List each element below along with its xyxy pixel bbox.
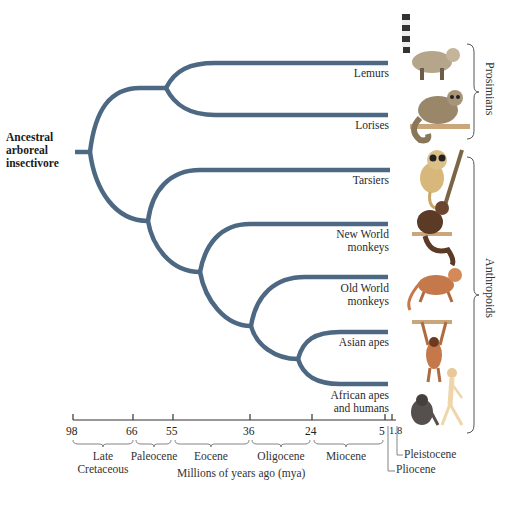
- group-braces: [467, 44, 479, 433]
- chimp-and-human-illustration: [411, 368, 462, 425]
- taxon-label-line: Old World: [341, 282, 389, 295]
- taxon-label-lorises: Lorises: [355, 119, 389, 132]
- loris-illustration: [410, 90, 470, 140]
- epoch-pleistocene: Pleistocene: [404, 448, 456, 461]
- taxon-label-line: monkeys: [336, 241, 389, 254]
- epoch-miocene: Miocene: [316, 450, 376, 463]
- group-label-anthropoids: Anthropoids: [482, 258, 497, 318]
- tick-98: 98: [66, 425, 78, 437]
- epoch-oligocene: Oligocene: [251, 450, 311, 463]
- tick-55: 55: [166, 425, 178, 437]
- branch-catarrhines: [200, 272, 251, 326]
- branch-anthropoids: [90, 152, 148, 221]
- tick-1-8: 1.8: [389, 425, 402, 436]
- tick-5: 5: [379, 425, 385, 437]
- lemur-illustration: [402, 14, 460, 80]
- taxon-label-new-world-monkeys: New World monkeys: [336, 228, 389, 254]
- epoch-pliocene: Pliocene: [396, 463, 436, 476]
- root-label: Ancestral arboreal insectivore: [6, 131, 59, 170]
- anthropoids-brace: [467, 157, 479, 433]
- epoch-label-line: Cretaceous: [63, 463, 143, 476]
- axis-title: Millions of years ago (mya): [177, 467, 305, 479]
- taxon-label-tarsiers: Tarsiers: [353, 174, 389, 187]
- tick-24: 24: [305, 425, 317, 437]
- root-label-line: arboreal: [6, 144, 59, 157]
- taxon-label-line: and humans: [331, 402, 389, 415]
- root-label-line: insectivore: [6, 157, 59, 170]
- taxon-label-lemurs: Lemurs: [354, 67, 389, 80]
- taxon-label-old-world-monkeys: Old World monkeys: [341, 282, 389, 308]
- root-label-line: Ancestral: [6, 131, 59, 144]
- branch-african-apes: [298, 359, 388, 384]
- taxon-label-african-apes-and-humans: African apes and humans: [331, 389, 389, 415]
- tick-66: 66: [126, 425, 138, 437]
- branch-simians: [148, 221, 200, 272]
- new-world-monkey-illustration: [412, 201, 453, 265]
- taxon-label-line: African apes: [331, 389, 389, 402]
- epoch-paleocene: Paleocene: [124, 450, 184, 463]
- tick-36: 36: [243, 425, 255, 437]
- branch-prosimians: [90, 88, 166, 152]
- taxon-label-line: New World: [336, 228, 389, 241]
- old-world-monkey-illustration: [409, 268, 462, 310]
- gibbon-illustration: [412, 320, 452, 382]
- taxon-label-line: monkeys: [341, 295, 389, 308]
- tarsier-illustration: [420, 150, 462, 208]
- epoch-eocene: Eocene: [181, 450, 241, 463]
- branch-apes: [251, 326, 298, 359]
- taxon-label-asian-apes: Asian apes: [339, 336, 389, 349]
- branch-lorises: [166, 88, 388, 115]
- group-label-prosimians: Prosimians: [482, 62, 497, 115]
